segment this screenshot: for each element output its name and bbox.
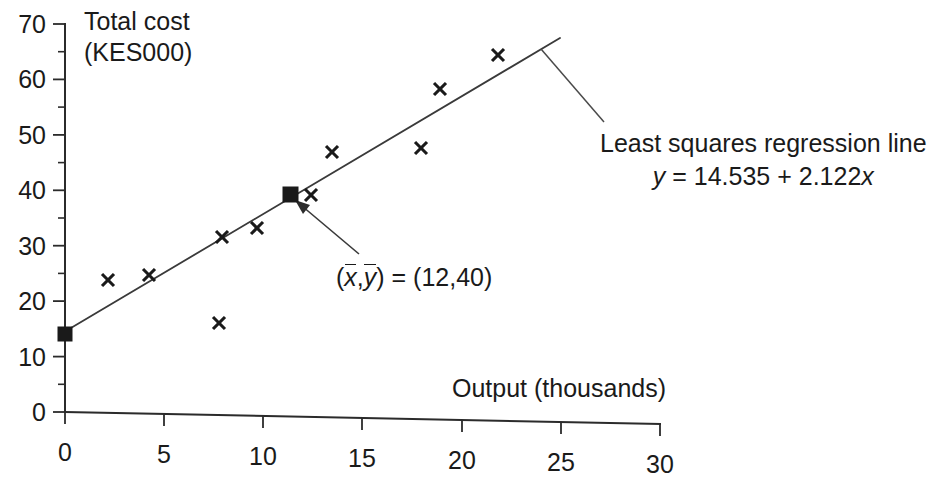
mean-comma: ,	[357, 263, 364, 291]
data-point-cross	[305, 189, 317, 201]
x-bar-symbol: x	[344, 263, 357, 292]
x-axis-major-ticks	[65, 412, 660, 436]
data-point-cross	[326, 146, 338, 158]
mean-point-square-marker	[283, 187, 298, 202]
x-tick-label: 0	[58, 438, 72, 466]
y-tick-label: 60	[18, 65, 46, 93]
regression-equation: y = 14.535 + 2.122x	[600, 160, 927, 193]
y-tick-label: 10	[18, 343, 46, 371]
y-tick-label: 70	[18, 10, 46, 38]
y-tick-label: 50	[18, 121, 46, 149]
x-tick-label: 5	[157, 440, 171, 468]
data-point-cross	[492, 49, 504, 61]
data-point-cross	[143, 269, 155, 281]
x-tick-label: 30	[646, 450, 674, 478]
mean-point-arrow-shaft	[302, 206, 359, 254]
mean-point-annotation: (x,y) = (12,40)	[336, 263, 492, 292]
data-point-cross	[434, 83, 446, 95]
x-tick-label: 25	[547, 448, 575, 476]
y-bar-symbol: y	[364, 263, 377, 292]
regression-line-annotation: Least squares regression line y = 14.535…	[600, 127, 927, 193]
equation-y-symbol: y	[653, 162, 666, 190]
y-tick-label: 30	[18, 232, 46, 260]
y-tick-label: 20	[18, 287, 46, 315]
data-point-cross	[102, 274, 114, 286]
equation-body: = 14.535 + 2.122	[665, 162, 861, 190]
y-tick-label: 0	[32, 398, 46, 426]
data-point-cross	[216, 231, 228, 243]
regression-line-label: Least squares regression line	[600, 127, 927, 160]
annotation-leader-line	[541, 49, 604, 122]
x-tick-label: 15	[348, 444, 376, 472]
y-tick-label: 40	[18, 176, 46, 204]
y-axis-title: Total cost (KES000)	[84, 6, 192, 67]
data-point-cross	[213, 317, 225, 329]
regression-scatter-figure: 70 60 50 40 30 20 10 0 0 5 10 15 20 25 3…	[0, 0, 933, 486]
x-axis-title: Output (thousands)	[452, 373, 666, 404]
y-axis-title-line1: Total cost	[84, 6, 192, 37]
x-tick-label: 20	[448, 446, 476, 474]
intercept-square-marker	[58, 327, 72, 341]
x-tick-label: 10	[249, 442, 277, 470]
mean-values: ) = (12,40)	[376, 263, 492, 291]
equation-x-symbol: x	[861, 162, 874, 190]
data-point-cross	[251, 222, 263, 234]
y-axis-title-line2: (KES000)	[84, 37, 192, 68]
data-point-cross	[415, 142, 427, 154]
plot-canvas: 70 60 50 40 30 20 10 0 0 5 10 15 20 25 3…	[0, 0, 933, 486]
